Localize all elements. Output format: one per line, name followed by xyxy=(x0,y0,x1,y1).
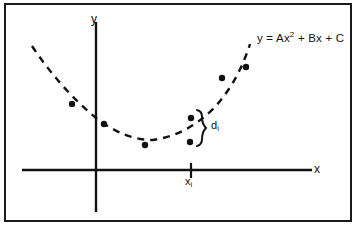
xi-subscript: i xyxy=(191,180,193,189)
data-point xyxy=(101,121,107,127)
data-point xyxy=(188,115,194,121)
residual-label: di xyxy=(211,120,219,131)
data-point xyxy=(187,139,193,145)
data-point xyxy=(243,64,249,70)
data-point xyxy=(219,75,225,81)
di-subscript: i xyxy=(217,124,219,133)
equation-prefix: y = Ax xyxy=(257,32,290,44)
data-point xyxy=(69,101,75,107)
residual-brace xyxy=(197,110,206,146)
data-point xyxy=(142,142,148,148)
y-axis-label: y xyxy=(91,13,97,25)
figure-container: y = Ax2 + Bx + C y x xi di xyxy=(0,0,359,231)
equation-suffix: + Bx + C xyxy=(295,32,345,44)
xi-base: x xyxy=(185,175,191,187)
x-axis-label: x xyxy=(314,163,320,175)
xi-tick-label: xi xyxy=(185,176,192,187)
equation-label: y = Ax2 + Bx + C xyxy=(257,33,344,45)
